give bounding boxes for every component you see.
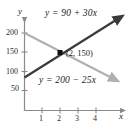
x-tick-label-4: 4 <box>93 115 97 123</box>
equation-line-increasing: y = 90 + 30x <box>45 9 97 19</box>
y-tick-label-100: 100 <box>6 68 18 76</box>
y-tick-label-150: 150 <box>6 48 18 56</box>
x-tick-label-3: 3 <box>75 115 79 123</box>
y-axis-label: y <box>18 7 22 16</box>
intersection-point-label: (2, 150) <box>66 49 93 58</box>
intersection-marker <box>58 50 63 55</box>
coordinate-plot <box>0 0 130 131</box>
y-tick-label-200: 200 <box>6 29 18 37</box>
x-tick-label-2: 2 <box>57 115 61 123</box>
graph-figure: y x y = 90 + 30x y = 200 − 25x (2, 150) … <box>0 0 130 131</box>
y-tick-label-50: 50 <box>11 85 19 93</box>
equation-line-decreasing: y = 200 − 25x <box>39 76 96 86</box>
x-tick-label-1: 1 <box>39 115 43 123</box>
x-axis-label: x <box>119 112 123 121</box>
